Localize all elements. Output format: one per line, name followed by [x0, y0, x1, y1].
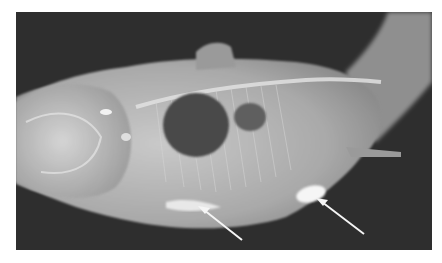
- swim-bladder-anterior: [163, 93, 229, 157]
- xray-image: [16, 12, 432, 250]
- fish-radiograph: [16, 12, 432, 250]
- fish-head: [16, 84, 131, 198]
- otolith: [100, 109, 112, 115]
- swim-bladder-posterior: [234, 103, 266, 131]
- bright-spot: [121, 133, 131, 141]
